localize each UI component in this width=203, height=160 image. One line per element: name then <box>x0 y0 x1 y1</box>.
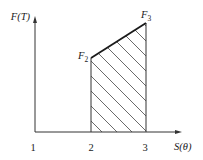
x-axis-arrow-icon <box>175 130 182 134</box>
origin-label: 1 <box>30 142 35 153</box>
ts-area-diagram: F(T) S(θ) 1 2 3 F2 F3 <box>0 0 203 160</box>
x-axis-label: S(θ) <box>174 141 192 153</box>
point-label-f3: F3 <box>140 9 151 23</box>
process-line-f2-f3 <box>91 23 146 58</box>
y-axis-arrow-icon <box>33 16 37 23</box>
point-label-f2: F2 <box>77 50 88 64</box>
point-label-f2-sub: 2 <box>84 55 88 64</box>
point-label-f3-sub: 3 <box>147 14 151 23</box>
tick-label-3: 3 <box>142 142 147 153</box>
y-axis-label: F(T) <box>10 11 31 23</box>
hatched-region <box>60 0 190 160</box>
tick-label-2: 2 <box>88 142 93 153</box>
